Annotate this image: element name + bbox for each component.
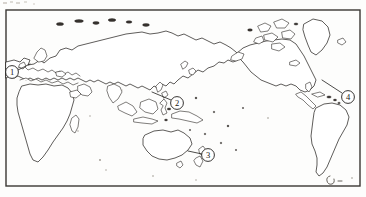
- marker-1-label: 1: [10, 67, 14, 77]
- marker-2-label: 2: [175, 98, 179, 108]
- map-page: 1 2 3 4: [0, 0, 366, 197]
- marker-3-label: 3: [206, 150, 210, 160]
- world-map-figure: 1 2 3 4: [0, 0, 366, 197]
- world-map-canvas: 1 2 3 4: [0, 0, 366, 197]
